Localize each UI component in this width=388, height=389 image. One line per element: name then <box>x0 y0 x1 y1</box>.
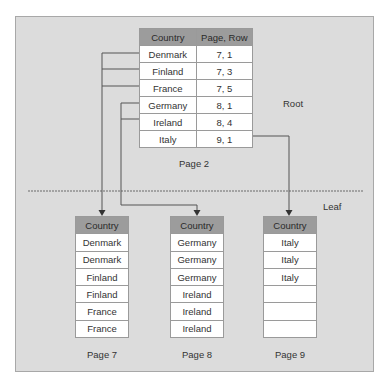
root-index-table: Country Page, Row Denmark 7, 1 Finland 7… <box>139 28 253 148</box>
column-header-country: Country <box>264 217 317 234</box>
page-row-cell: 8, 1 <box>196 97 252 114</box>
page-row-cell: 7, 3 <box>196 63 252 80</box>
leaf-table-page-7: Country Denmark Denmark Finland Finland … <box>75 216 129 338</box>
country-cell: Denmark <box>140 46 197 63</box>
country-cell: Denmark <box>76 251 129 268</box>
country-cell: Germany <box>171 234 224 251</box>
page-row-cell: 7, 1 <box>196 46 252 63</box>
column-header-country: Country <box>140 29 197 46</box>
country-cell: Finland <box>76 268 129 285</box>
country-cell: Italy <box>264 234 317 251</box>
country-cell: France <box>140 80 197 97</box>
table-row: Finland <box>76 286 129 303</box>
table-row: Denmark 7, 1 <box>140 46 253 63</box>
table-row: Italy <box>264 251 317 268</box>
country-cell: Germany <box>171 251 224 268</box>
country-cell: Germany <box>140 97 197 114</box>
table-row: Italy 9, 1 <box>140 131 253 148</box>
empty-cell <box>264 286 317 303</box>
country-cell: France <box>76 303 129 320</box>
country-cell: Italy <box>264 251 317 268</box>
page-row-cell: 7, 5 <box>196 80 252 97</box>
country-cell: Finland <box>76 286 129 303</box>
country-cell: France <box>76 320 129 337</box>
country-cell: Ireland <box>171 320 224 337</box>
table-row: Ireland 8, 4 <box>140 114 253 131</box>
table-row: Italy <box>264 234 317 251</box>
table-row: Germany <box>171 234 224 251</box>
table-row: Germany 8, 1 <box>140 97 253 114</box>
table-row <box>264 286 317 303</box>
page-row-cell: 8, 4 <box>196 114 252 131</box>
country-cell: Finland <box>140 63 197 80</box>
table-row <box>264 320 317 337</box>
table-row <box>264 303 317 320</box>
empty-cell <box>264 303 317 320</box>
column-header-country: Country <box>76 217 129 234</box>
leaf-level-label: Leaf <box>323 201 342 212</box>
table-row: Ireland <box>171 286 224 303</box>
table-row: Denmark <box>76 251 129 268</box>
leaf-page-8-caption: Page 8 <box>182 349 212 360</box>
table-row: France <box>76 303 129 320</box>
leaf-table-page-8: Country Germany Germany Germany Ireland … <box>170 216 224 338</box>
country-cell: Denmark <box>76 234 129 251</box>
table-row: Ireland <box>171 303 224 320</box>
leaf-table-page-9: Country Italy Italy Italy <box>263 216 317 338</box>
table-row: Finland 7, 3 <box>140 63 253 80</box>
column-header-page-row: Page, Row <box>196 29 252 46</box>
leaf-page-7-caption: Page 7 <box>87 349 117 360</box>
country-cell: Ireland <box>140 114 197 131</box>
country-cell: Germany <box>171 268 224 285</box>
table-row: France <box>76 320 129 337</box>
leaf-page-9-caption: Page 9 <box>275 349 305 360</box>
country-cell: Ireland <box>171 286 224 303</box>
column-header-country: Country <box>171 217 224 234</box>
country-cell: Italy <box>140 131 197 148</box>
table-row: Italy <box>264 268 317 285</box>
page-row-cell: 9, 1 <box>196 131 252 148</box>
table-row: Germany <box>171 268 224 285</box>
table-row: France 7, 5 <box>140 80 253 97</box>
country-cell: Italy <box>264 268 317 285</box>
country-cell: Ireland <box>171 303 224 320</box>
root-level-label: Root <box>283 98 303 109</box>
table-row: Finland <box>76 268 129 285</box>
root-page-caption: Page 2 <box>179 158 209 169</box>
table-row: Ireland <box>171 320 224 337</box>
table-row: Denmark <box>76 234 129 251</box>
empty-cell <box>264 320 317 337</box>
table-row: Germany <box>171 251 224 268</box>
